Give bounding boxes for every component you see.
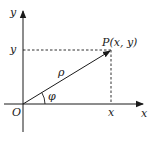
radius-label: ρ — [57, 66, 65, 79]
diagram-svg: y y P(x, y) ρ φ O x x — [0, 0, 151, 146]
x-axis-label: x — [141, 107, 148, 120]
y-axis-label: y — [9, 6, 17, 19]
x-tick-label: x — [108, 106, 115, 119]
polar-coordinate-diagram: y y P(x, y) ρ φ O x x — [0, 0, 151, 146]
angle-label: φ — [48, 90, 56, 103]
origin-label: O — [12, 106, 21, 119]
radius-vector — [23, 51, 110, 104]
point-p-label: P(x, y) — [101, 36, 137, 49]
y-tick-label: y — [9, 43, 17, 56]
angle-arc — [42, 93, 45, 104]
